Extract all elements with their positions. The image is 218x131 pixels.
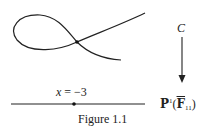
projective-space-symbol: P bbox=[160, 97, 169, 111]
arrow-head-icon bbox=[179, 75, 186, 83]
point-label: x = −3 bbox=[56, 86, 87, 98]
field-subscript: 11 bbox=[185, 104, 192, 112]
figure-caption: Figure 1.1 bbox=[78, 113, 127, 125]
curve-label: C bbox=[177, 22, 185, 34]
node-point bbox=[75, 40, 79, 44]
dimension-superscript: 1 bbox=[169, 97, 173, 105]
nodal-curve bbox=[14, 13, 145, 60]
projective-line-label: P1(F11) bbox=[160, 98, 196, 112]
point-label-value: = −3 bbox=[61, 85, 87, 99]
base-point bbox=[72, 102, 76, 106]
field-symbol: F bbox=[177, 97, 186, 111]
